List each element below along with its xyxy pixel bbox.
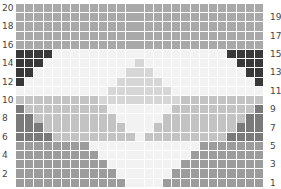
chart-cell — [16, 41, 24, 49]
chart-cell — [53, 169, 61, 177]
chart-cell — [108, 13, 116, 21]
chart-cell — [126, 32, 134, 40]
chart-cell — [53, 4, 61, 12]
row-label: 16 — [2, 41, 13, 50]
chart-cell — [25, 160, 33, 168]
chart-cell — [200, 179, 208, 187]
chart-cell — [191, 13, 199, 21]
chart-cell — [246, 78, 254, 86]
chart-cell — [145, 114, 153, 122]
chart-cell — [218, 4, 226, 12]
chart-cell — [135, 96, 143, 104]
chart-cell — [154, 41, 162, 49]
chart-cell — [145, 160, 153, 168]
chart-cell — [44, 50, 52, 58]
chart-cell — [117, 114, 125, 122]
chart-cell — [191, 78, 199, 86]
chart-cell — [227, 123, 235, 131]
chart-cell — [71, 32, 79, 40]
chart-cell — [25, 78, 33, 86]
chart-cell — [209, 169, 217, 177]
chart-cell — [44, 179, 52, 187]
chart-cell — [90, 41, 98, 49]
chart-cell — [163, 142, 171, 150]
chart-cell — [237, 41, 245, 49]
chart-cell — [34, 169, 42, 177]
chart-cell — [53, 50, 61, 58]
chart-cell — [53, 160, 61, 168]
chart-cell — [172, 78, 180, 86]
chart-cell — [163, 114, 171, 122]
chart-cell — [80, 169, 88, 177]
chart-cell — [181, 41, 189, 49]
chart-cell — [108, 169, 116, 177]
chart-cell — [53, 87, 61, 95]
chart-cell — [191, 68, 199, 76]
chart-cell — [200, 41, 208, 49]
chart-cell — [90, 78, 98, 86]
chart-cell — [62, 133, 70, 141]
chart-cell — [209, 41, 217, 49]
chart-cell — [90, 13, 98, 21]
chart-cell — [44, 114, 52, 122]
chart-cell — [227, 87, 235, 95]
chart-cell — [117, 151, 125, 159]
chart-cell — [117, 78, 125, 86]
chart-cell — [16, 59, 24, 67]
row-label: 8 — [2, 114, 8, 123]
chart-cell — [90, 22, 98, 30]
chart-cell — [126, 96, 134, 104]
chart-cell — [227, 169, 235, 177]
chart-cell — [90, 151, 98, 159]
chart-cell — [44, 96, 52, 104]
chart-cell — [117, 142, 125, 150]
chart-cell — [71, 59, 79, 67]
chart-cell — [218, 169, 226, 177]
chart-cell — [191, 105, 199, 113]
chart-cell — [154, 59, 162, 67]
chart-cell — [80, 151, 88, 159]
chart-cell — [163, 87, 171, 95]
chart-cell — [172, 114, 180, 122]
chart-cell — [71, 50, 79, 58]
chart-cell — [117, 32, 125, 40]
chart-cell — [135, 78, 143, 86]
chart-cell — [126, 50, 134, 58]
chart-cell — [181, 133, 189, 141]
row-label: 6 — [2, 133, 8, 142]
row-label: 9 — [270, 105, 276, 114]
row-label: 15 — [270, 50, 281, 59]
chart-cell — [181, 151, 189, 159]
chart-cell — [34, 41, 42, 49]
chart-cell — [163, 4, 171, 12]
chart-cell — [16, 32, 24, 40]
chart-cell — [255, 133, 263, 141]
chart-cell — [99, 123, 107, 131]
chart-cell — [16, 169, 24, 177]
chart-cell — [135, 169, 143, 177]
chart-cell — [117, 179, 125, 187]
chart-cell — [218, 22, 226, 30]
chart-cell — [209, 114, 217, 122]
chart-cell — [62, 22, 70, 30]
chart-cell — [200, 59, 208, 67]
chart-cell — [135, 68, 143, 76]
chart-cell — [163, 133, 171, 141]
chart-cell — [181, 105, 189, 113]
chart-cell — [209, 96, 217, 104]
chart-cell — [255, 4, 263, 12]
chart-cell — [53, 114, 61, 122]
chart-cell — [227, 151, 235, 159]
chart-cell — [237, 123, 245, 131]
chart-cell — [108, 142, 116, 150]
chart-cell — [237, 133, 245, 141]
chart-cell — [90, 169, 98, 177]
chart-cell — [108, 59, 116, 67]
chart-cell — [145, 169, 153, 177]
chart-cell — [25, 169, 33, 177]
chart-cell — [135, 160, 143, 168]
chart-cell — [255, 179, 263, 187]
chart-cell — [126, 41, 134, 49]
chart-cell — [255, 13, 263, 21]
chart-cell — [108, 87, 116, 95]
